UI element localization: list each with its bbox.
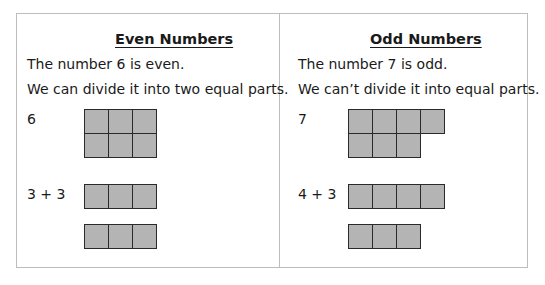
square-block xyxy=(396,133,421,158)
odd-part-1 xyxy=(348,184,444,208)
even-part-1 xyxy=(84,184,156,208)
square-block xyxy=(84,184,109,209)
even-title: Even Numbers xyxy=(115,31,233,47)
odd-title: Odd Numbers xyxy=(370,31,482,47)
odd-line-1: The number 7 is odd. xyxy=(298,56,447,72)
square-block xyxy=(348,133,373,158)
square-block xyxy=(396,224,421,249)
square-block xyxy=(348,109,373,134)
square-block xyxy=(348,224,373,249)
square-block xyxy=(84,224,109,249)
odd-part-2 xyxy=(348,224,420,248)
square-block xyxy=(108,133,133,158)
even-line-1: The number 6 is even. xyxy=(27,56,184,72)
odd-number-label: 7 xyxy=(298,111,307,127)
square-block xyxy=(132,224,157,249)
square-block xyxy=(84,133,109,158)
square-block xyxy=(372,133,397,158)
square-block xyxy=(420,109,445,134)
square-block xyxy=(372,184,397,209)
even-sum-label: 3 + 3 xyxy=(27,186,65,202)
square-block xyxy=(372,109,397,134)
even-grid xyxy=(84,109,156,157)
odd-grid xyxy=(348,109,444,157)
even-line-2: We can divide it into two equal parts. xyxy=(27,81,288,97)
even-number-label: 6 xyxy=(27,111,36,127)
empty-slot xyxy=(420,133,445,158)
square-block xyxy=(372,224,397,249)
square-block xyxy=(108,224,133,249)
square-block xyxy=(132,133,157,158)
square-block xyxy=(132,109,157,134)
odd-sum-label: 4 + 3 xyxy=(298,186,336,202)
panel-divider xyxy=(279,13,280,268)
square-block xyxy=(84,109,109,134)
odd-line-2: We can’t divide it into equal parts. xyxy=(298,81,539,97)
square-block xyxy=(108,109,133,134)
square-block xyxy=(108,184,133,209)
square-block xyxy=(396,109,421,134)
square-block xyxy=(420,184,445,209)
even-part-2 xyxy=(84,224,156,248)
square-block xyxy=(132,184,157,209)
square-block xyxy=(396,184,421,209)
square-block xyxy=(348,184,373,209)
